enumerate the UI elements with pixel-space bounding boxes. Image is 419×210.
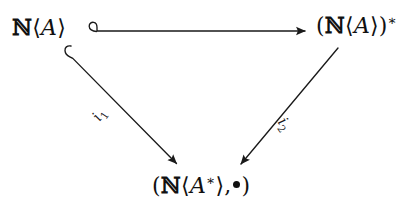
edge-right-diagonal (241, 48, 338, 164)
node-source-close-angle: ⟩ (57, 15, 66, 40)
right-diagonal-arrow-path (241, 48, 338, 164)
node-bottom-close-angle: ⟩ (215, 173, 224, 198)
node-target-variable: A (354, 13, 370, 38)
node-bottom-open-paren: ( (152, 173, 161, 198)
commutative-diagram: (N)* --> ℕ⟨A⟩ (ℕ⟨A⟩)∗ (ℕ⟨A∗⟩,) i1 i2 (0, 0, 419, 210)
node-bottom-open-angle: ⟨ (181, 173, 190, 198)
node-bottom-comma: , (224, 173, 231, 198)
left-diagonal-arrow-path (65, 46, 177, 164)
node-bottom-close-paren: ) (242, 173, 251, 198)
node-source-blackboard-n: ℕ (12, 14, 32, 40)
top-horizontal-arrow-path (89, 22, 305, 31)
edge-top-horizontal (89, 22, 305, 31)
node-target-close-angle: ⟩ (370, 13, 379, 38)
node-target-open-paren: ( (316, 13, 325, 38)
edge-left-diagonal (65, 46, 177, 164)
node-target-open-angle: ⟨ (345, 13, 354, 38)
node-target-blackboard-n: ℕ (325, 12, 345, 38)
node-source-variable: A (41, 15, 57, 40)
node-bottom-blackboard-n: ℕ (161, 172, 181, 198)
node-bottom-variable: A (190, 173, 206, 198)
node-source-open-angle: ⟨ (32, 15, 41, 40)
node-source: ℕ⟨A⟩ (12, 16, 66, 39)
node-target-star-superscript: ∗ (388, 12, 397, 28)
node-bottom-bullet-operator (233, 181, 240, 188)
node-bottom: (ℕ⟨A∗⟩,) (152, 174, 250, 197)
node-target-close-paren: ) (379, 13, 388, 38)
node-target-star: (ℕ⟨A⟩)∗ (316, 14, 397, 37)
